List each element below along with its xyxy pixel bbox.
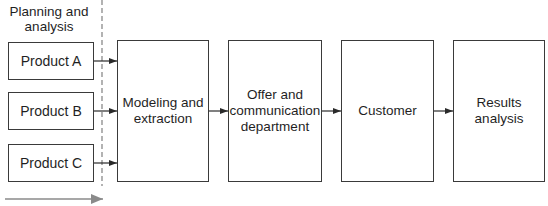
connectors [0,0,548,206]
